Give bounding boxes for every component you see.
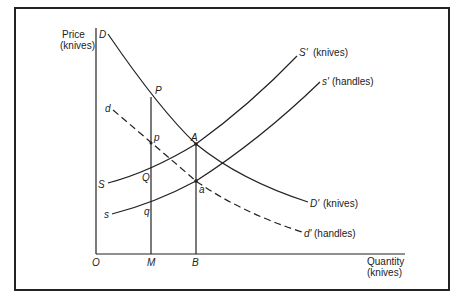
point-p-dot [150, 142, 153, 145]
label-q: q [144, 206, 150, 217]
label-d-prime: d' [304, 228, 313, 239]
label-a: a [199, 184, 205, 195]
demand-curve-knives [108, 34, 308, 202]
label-S-prime: S' [299, 47, 309, 58]
label-A: A [190, 132, 198, 143]
x-tick-M: M [147, 257, 156, 268]
label-s-prime: s' [322, 76, 330, 87]
label-p: p [153, 132, 160, 143]
label-P: P [155, 85, 162, 96]
label-D-prime: D' [310, 198, 320, 209]
label-D: D [99, 29, 106, 40]
x-tick-B: B [192, 257, 199, 268]
y-axis-label-line1: Price [62, 29, 85, 40]
label-d: d [105, 103, 111, 114]
label-d-prime-note: (handles) [314, 228, 356, 239]
origin-label: O [92, 257, 100, 268]
label-D-prime-note: (knives) [323, 198, 358, 209]
supply-curve-knives [108, 56, 297, 183]
x-axis-label-line2: (knives) [367, 267, 402, 278]
label-Q: Q [142, 172, 150, 183]
x-axis-label-line1: Quantity [367, 256, 404, 267]
y-axis-label-line2: (knives) [60, 40, 95, 51]
point-a-dot [194, 179, 198, 183]
demand-curve-handles [113, 110, 302, 232]
supply-demand-diagram: Price (knives) Quantity (knives) O M B D… [0, 0, 463, 302]
label-S: S [98, 179, 105, 190]
label-S-prime-note: (knives) [313, 47, 348, 58]
label-s-prime-note: (handles) [332, 76, 374, 87]
label-s: s [104, 209, 109, 220]
